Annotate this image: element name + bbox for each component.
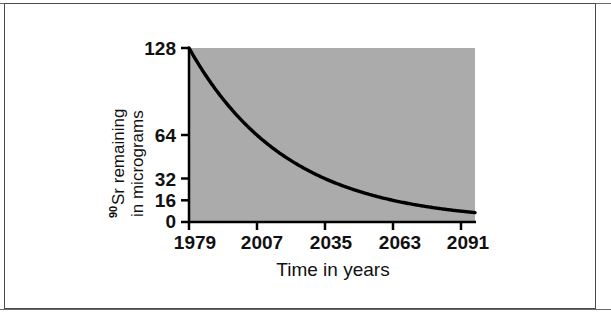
x-axis-title: Time in years xyxy=(276,259,389,280)
y-tick-label-64: 64 xyxy=(155,125,177,146)
y-axis-title-line1: Sr remaining xyxy=(109,109,128,205)
decay-chart: 128 64 32 16 0 1979 2007 2035 2063 2091 … xyxy=(0,0,611,324)
y-tick-label-32: 32 xyxy=(155,169,176,190)
y-axis-title-superscript: 90 xyxy=(107,206,119,218)
y-axis-title-group: 90 Sr remaining in micrograms xyxy=(107,109,147,218)
y-tick-label-128: 128 xyxy=(144,38,176,59)
y-tick-label-0: 0 xyxy=(165,211,176,232)
x-tick-label-2063: 2063 xyxy=(379,232,421,253)
x-tick-label-2007: 2007 xyxy=(241,232,283,253)
y-tick-label-16: 16 xyxy=(155,190,176,211)
plot-area-background xyxy=(189,48,475,222)
x-tick-label-2091: 2091 xyxy=(447,232,490,253)
figure-root: 128 64 32 16 0 1979 2007 2035 2063 2091 … xyxy=(0,0,611,324)
x-tick-label-1979: 1979 xyxy=(174,232,216,253)
y-axis-title-line2: in micrograms xyxy=(128,110,147,217)
x-tick-label-2035: 2035 xyxy=(310,232,353,253)
